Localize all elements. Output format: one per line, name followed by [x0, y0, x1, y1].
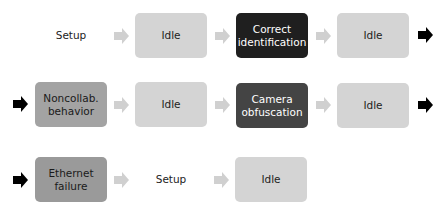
- arrow-right-light-icon: [114, 28, 129, 44]
- node-ethernet-failure: Ethernet failure: [35, 157, 107, 202]
- arrow-right-dark-icon: [13, 96, 28, 112]
- node-setup-2: Setup: [135, 157, 207, 202]
- node-setup-1: Setup: [35, 13, 107, 58]
- arrow-right-light-icon: [316, 97, 331, 113]
- node-camera-obfuscation: Camera obfuscation: [236, 83, 308, 128]
- node-idle-5: Idle: [235, 157, 307, 202]
- arrow-right-light-icon: [214, 172, 229, 188]
- arrow-right-light-icon: [316, 28, 331, 44]
- node-idle-3: Idle: [135, 82, 207, 127]
- arrow-right-light-icon: [215, 97, 230, 113]
- arrow-right-light-icon: [114, 97, 129, 113]
- node-correct-identification: Correct identification: [236, 13, 308, 58]
- arrow-right-dark-icon: [13, 172, 28, 188]
- arrow-right-light-icon: [215, 28, 230, 44]
- node-idle-2: Idle: [337, 13, 409, 58]
- arrow-right-light-icon: [114, 172, 129, 188]
- node-noncollab-behavior: Noncollab. behavior: [35, 82, 107, 127]
- node-idle-1: Idle: [135, 13, 207, 58]
- arrow-right-dark-icon: [418, 97, 433, 113]
- arrow-right-dark-icon: [418, 27, 433, 43]
- node-idle-4: Idle: [337, 83, 409, 128]
